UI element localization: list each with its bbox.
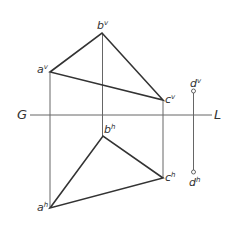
label-ch: ch — [165, 172, 176, 183]
label-cv-sup: v — [171, 93, 175, 101]
label-bv: bv — [97, 20, 108, 31]
label-ch-sup: h — [171, 171, 175, 179]
label-dh: dh — [189, 177, 200, 188]
label-bv-base: b — [97, 19, 104, 32]
label-bh-sup: h — [111, 123, 115, 131]
ground-line-label-g: G — [17, 108, 27, 121]
label-av-base: a — [37, 63, 44, 76]
label-av: av — [37, 64, 48, 75]
label-dv-sup: v — [197, 77, 201, 85]
label-bv-sup: v — [104, 19, 108, 27]
label-dh-base: d — [189, 176, 196, 189]
label-av-sup: v — [44, 63, 48, 71]
triangle-front-view — [50, 33, 163, 100]
orthographic-projection-diagram — [0, 0, 233, 236]
label-dh-sup: h — [196, 176, 200, 184]
triangle-top-view — [50, 136, 163, 208]
label-dv: dv — [190, 78, 201, 89]
point-dh-marker — [192, 170, 196, 174]
ground-line-label-l: L — [214, 108, 221, 121]
label-bh: bh — [104, 124, 115, 135]
label-cv: cv — [165, 94, 175, 105]
label-ah-base: a — [37, 201, 44, 214]
label-ah: ah — [37, 202, 48, 213]
label-dv-base: d — [190, 77, 197, 90]
label-ah-sup: h — [44, 201, 48, 209]
label-bh-base: b — [104, 123, 111, 136]
